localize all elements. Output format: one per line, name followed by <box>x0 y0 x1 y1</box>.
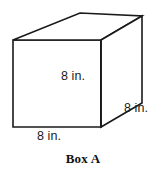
figure-caption: Box A <box>0 152 166 165</box>
box-front-face <box>13 40 101 127</box>
dimension-label-depth: 8 in. <box>124 102 148 115</box>
figure-container: 8 in. 8 in. 8 in. Box A <box>0 0 166 173</box>
dimension-label-width: 8 in. <box>37 130 61 143</box>
box-diagram <box>0 0 166 173</box>
dimension-label-height: 8 in. <box>61 70 85 83</box>
